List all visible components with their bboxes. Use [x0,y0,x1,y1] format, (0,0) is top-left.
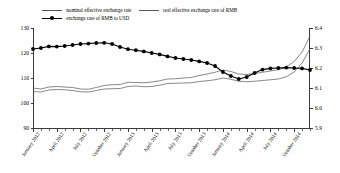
y-axis-left-tick-label: 100 [21,100,29,106]
x-axis-tick-label: April 2013 [142,131,160,153]
series-line-1 [33,49,310,93]
series-marker [300,67,304,71]
legend-row-bottom: exchange rate of RMB to USD [42,14,135,21]
x-axis-tick [128,129,129,132]
legend-label-usd: exchange rate of RMB to USD [66,15,129,21]
y-axis-right-tick [310,88,313,89]
series-marker [276,66,280,70]
x-axis-minor-tick [144,129,145,131]
line-swatch-icon [42,7,62,13]
x-axis-labels: January 2012April 2012July 2012October 2… [33,131,310,171]
x-axis-minor-tick [191,129,192,131]
series-marker [308,68,312,72]
x-axis-minor-tick [41,129,42,131]
x-axis-tick-label: July 2012 [72,131,89,151]
x-axis-minor-tick [88,129,89,131]
y-axis-right-tick [310,28,313,29]
x-axis-tick [33,129,34,132]
y-axis-right-tick-label: 5.9 [315,125,322,131]
x-axis-minor-tick [160,129,161,131]
series-marker [142,50,146,54]
series-marker [189,58,193,62]
x-axis-tick [80,129,81,132]
series-marker [261,68,265,72]
x-axis-tick-label: January 2014 [210,131,231,157]
x-axis-tick-label: October 2012 [91,131,112,158]
series-marker [197,60,201,64]
line-swatch-icon [139,7,159,13]
x-axis-tick [247,129,248,132]
series-marker [237,77,241,81]
x-axis-minor-tick [96,129,97,131]
y-axis-right-tick-label: 6.4 [315,25,322,31]
series-marker [245,75,249,79]
x-axis-tick [152,129,153,132]
series-marker [79,42,83,46]
x-axis-minor-tick [207,129,208,131]
series-marker [166,55,170,59]
legend-item-usd: exchange rate of RMB to USD [42,14,129,21]
chart-legend: nominal effective exchange rate real eff… [0,3,340,25]
y-axis-left-tick-label: 90 [23,125,29,131]
y-axis-left-tick-label: 130 [21,25,29,31]
x-axis-tick-label: October 2013 [186,131,207,158]
x-axis-minor-tick [239,129,240,131]
y-axis-right-tick [310,48,313,49]
series-marker [94,41,98,45]
x-axis-minor-tick [112,129,113,131]
y-axis-left-tick-label: 110 [21,75,29,81]
x-axis-tick-label: October 2014 [281,131,302,158]
series-marker [229,74,233,78]
x-axis-tick-label: January 2012 [20,131,41,157]
series-marker [253,71,257,75]
series-canvas [33,28,310,128]
x-axis-tick-label: July 2013 [167,131,184,151]
y-axis-right: 5.96.06.16.26.36.4 [310,28,340,128]
x-axis-minor-tick [255,129,256,131]
x-axis-tick-label: July 2014 [262,131,279,151]
x-axis-minor-tick [136,129,137,131]
x-axis-minor-tick [120,129,121,131]
y-axis-right-tick-label: 6.3 [315,45,322,51]
series-marker [63,44,67,48]
chart-root: nominal effective exchange rate real eff… [0,0,340,173]
series-marker [213,64,217,68]
x-axis-minor-tick [215,129,216,131]
x-axis-minor-tick [65,129,66,131]
x-axis-tick [294,129,295,132]
series-marker [221,70,225,74]
x-axis-minor-tick [49,129,50,131]
series-marker [87,42,91,46]
series-marker [55,45,59,49]
series-marker [269,67,273,71]
x-axis-tick [57,129,58,132]
line-marker-swatch-icon [42,15,62,21]
series-marker [205,61,209,65]
legend-item-nominal: nominal effective exchange rate [42,6,131,13]
series-marker [118,45,122,49]
series-marker [174,56,178,60]
series-marker [71,43,75,47]
x-axis-tick [104,129,105,132]
series-marker [110,42,114,46]
series-line-2 [33,43,310,79]
series-marker [102,41,106,45]
x-axis-tick [199,129,200,132]
legend-row-top: nominal effective exchange rate real eff… [42,6,243,13]
series-marker [39,46,43,50]
series-marker [134,48,138,52]
series-line-0 [33,36,310,89]
series-marker [126,47,130,51]
x-axis-minor-tick [231,129,232,131]
x-axis-minor-tick [73,129,74,131]
plot-area [33,28,310,128]
series-marker [150,51,154,55]
x-axis-minor-tick [183,129,184,131]
series-marker [158,53,162,57]
x-axis-minor-tick [168,129,169,131]
x-axis-minor-tick [278,129,279,131]
x-axis-tick [175,129,176,132]
x-axis-minor-tick [302,129,303,131]
series-marker [292,66,296,70]
legend-item-real: real effective exchange rate of RMB [139,6,237,13]
